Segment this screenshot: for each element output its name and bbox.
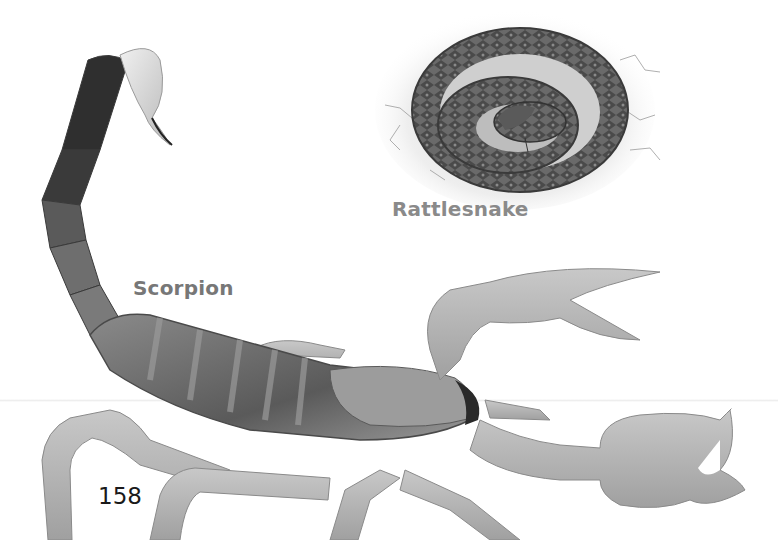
rattlesnake-label: Rattlesnake	[392, 197, 529, 221]
scorpion-label: Scorpion	[133, 276, 234, 300]
page-number: 158	[98, 483, 142, 509]
book-page: Rattlesnake Scorpion 158	[0, 0, 778, 540]
scorpion-image	[0, 0, 778, 540]
